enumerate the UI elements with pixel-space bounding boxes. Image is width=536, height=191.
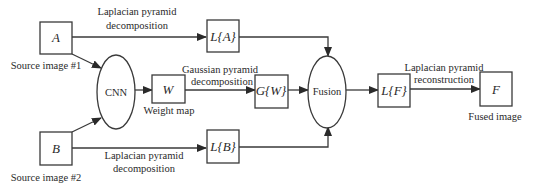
node-w-label: W: [163, 82, 175, 97]
edge-b-to-cnn: [72, 118, 101, 132]
edge-label-a-la-line2: decomposition: [106, 20, 169, 31]
node-b-label: B: [52, 141, 60, 156]
node-f: F Fused image: [468, 72, 522, 122]
node-b: B Source image #2: [11, 132, 82, 183]
node-gw-label: G{W}: [256, 83, 287, 98]
node-f-label: F: [491, 82, 501, 97]
node-lb-label: L{B}: [209, 139, 236, 154]
node-f-caption: Fused image: [468, 111, 522, 122]
edge-label-b-lb-line2: decomposition: [113, 163, 176, 174]
node-lb: L{B}: [207, 130, 239, 163]
node-cnn-label: CNN: [105, 87, 128, 98]
edge-label-w-gw-line2: decomposition: [191, 76, 254, 87]
node-lf-label: L{F}: [380, 83, 407, 98]
edge-label-w-gw-line1: Gaussian pyramid: [182, 64, 259, 75]
node-b-caption: Source image #2: [11, 172, 82, 183]
node-w: W Weight map: [144, 75, 195, 116]
edge-label-lf-f-line1: Laplacian pyramid: [404, 62, 484, 73]
node-gw: G{W}: [255, 75, 288, 108]
edge-label-lf-f-line2: reconstruction: [414, 74, 475, 85]
image-fusion-flowchart: Laplacian pyramid decomposition Gaussian…: [0, 0, 536, 191]
node-lf: L{F}: [378, 74, 410, 107]
edge-lb-to-fusion: [239, 127, 328, 147]
edge-la-to-fusion: [239, 37, 328, 56]
node-a-label: A: [51, 30, 60, 45]
node-w-caption: Weight map: [144, 105, 195, 116]
edge-label-a-la-line1: Laplacian pyramid: [97, 6, 177, 17]
edge-label-b-lb-line1: Laplacian pyramid: [104, 150, 184, 161]
node-fusion-label: Fusion: [313, 86, 342, 97]
node-cnn: CNN: [97, 55, 135, 129]
node-a-caption: Source image #1: [11, 60, 82, 71]
node-fusion: Fusion: [308, 56, 346, 128]
node-a: A Source image #1: [11, 22, 82, 71]
node-la-label: L{A}: [209, 29, 236, 44]
node-la: L{A}: [207, 20, 239, 52]
